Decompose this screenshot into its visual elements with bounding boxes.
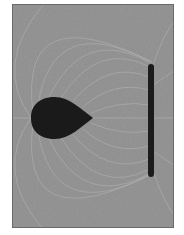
field-line-photo — [12, 4, 174, 228]
plate-electrode — [148, 64, 154, 177]
field-lines-graphic — [13, 5, 174, 228]
